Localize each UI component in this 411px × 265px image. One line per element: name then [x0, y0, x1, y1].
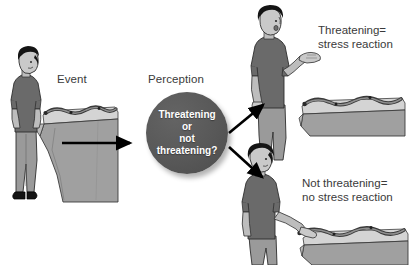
stress-appraisal-diagram: Event Perception Threatening or not thre…: [0, 0, 411, 265]
outcome-threatening-line1: Threatening=: [318, 23, 393, 37]
outcome-not-threatening-label: Not threatening= no stress reaction: [302, 176, 393, 204]
outcome-threatening-line2: stress reaction: [318, 37, 393, 51]
circle-line-2: or: [182, 121, 192, 133]
outcome-not-threatening-line2: no stress reaction: [302, 190, 393, 204]
perception-decision-circle: Threatening or not threatening?: [146, 92, 228, 174]
circle-line-3: not: [179, 133, 195, 145]
arrow-perception-to-threatening: [229, 105, 263, 133]
perception-label: Perception: [148, 73, 204, 85]
event-person: [11, 46, 41, 199]
event-label: Event: [57, 73, 87, 85]
stress-reaction-person: [251, 5, 320, 160]
circle-line-1: Threatening: [158, 109, 215, 121]
circle-line-4: threatening?: [157, 145, 218, 157]
outcome-not-threatening-line1: Not threatening=: [302, 176, 393, 190]
event-rock-ledge: [36, 107, 118, 202]
outcome-threatening-label: Threatening= stress reaction: [318, 23, 393, 51]
